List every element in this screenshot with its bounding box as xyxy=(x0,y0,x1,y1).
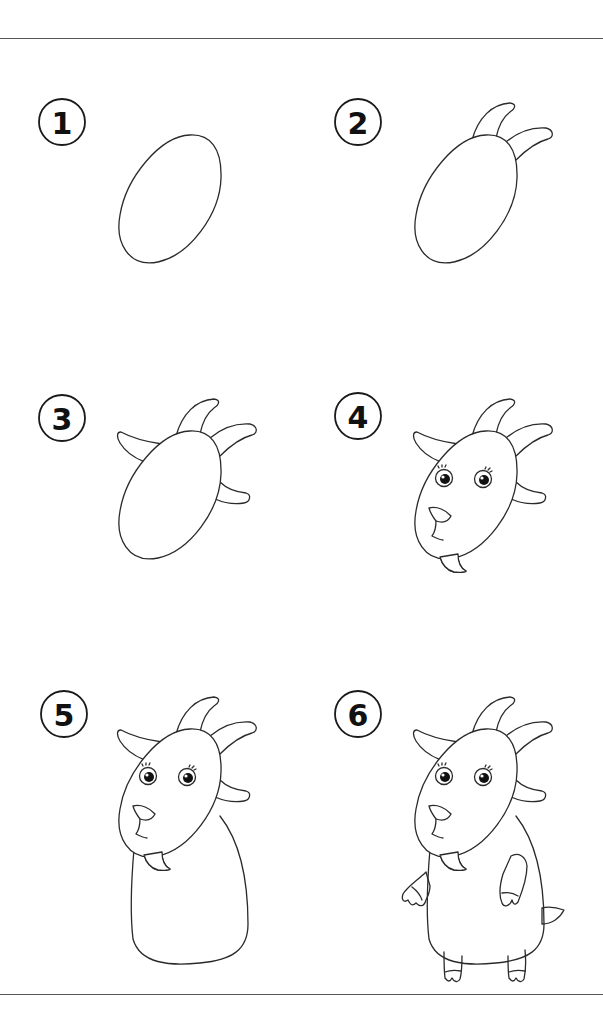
goat-drawing-step-3 xyxy=(118,399,257,559)
step-4: 4 xyxy=(335,393,552,572)
step-4-number: 4 xyxy=(348,400,369,435)
step-3-number: 3 xyxy=(52,402,73,437)
step-2-number-badge: 2 xyxy=(335,99,381,145)
goat-head-outline xyxy=(415,135,517,263)
step-5-number: 5 xyxy=(54,698,75,733)
goat-drawing-step-2 xyxy=(415,103,552,263)
step-6-number-badge: 6 xyxy=(335,691,381,737)
step-2: 2 xyxy=(335,99,552,263)
step-3-number-badge: 3 xyxy=(39,395,85,441)
step-1: 1 xyxy=(39,99,221,263)
step-5: 5 xyxy=(41,691,256,964)
step-2-number: 2 xyxy=(348,106,369,141)
goat-drawing-step-6 xyxy=(402,697,564,982)
step-6: 6 xyxy=(335,691,564,982)
step-1-number-badge: 1 xyxy=(39,99,85,145)
step-4-number-badge: 4 xyxy=(335,393,381,439)
step-3: 3 xyxy=(39,395,256,559)
step-1-number: 1 xyxy=(52,106,73,141)
goat-head-outline xyxy=(119,135,221,263)
step-5-number-badge: 5 xyxy=(41,691,87,737)
step-6-number: 6 xyxy=(348,698,369,733)
goat-drawing-step-5 xyxy=(118,697,257,964)
goat-drawing-step-4 xyxy=(414,399,553,572)
